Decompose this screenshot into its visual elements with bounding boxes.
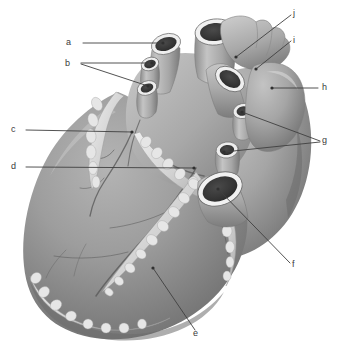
label-letter-e: e — [193, 329, 198, 338]
leader-endpoint-e-1 — [151, 266, 154, 269]
leader-endpoint-b-2 — [146, 84, 149, 87]
label-letter-i: i — [293, 36, 295, 45]
label-letter-g: g — [322, 136, 327, 145]
label-letter-j: j — [293, 9, 295, 18]
label-letter-b: b — [65, 59, 70, 68]
leader-endpoint-f-1 — [216, 187, 219, 190]
leader-endpoint-g-1 — [240, 110, 243, 113]
leader-endpoint-j-1 — [234, 55, 237, 58]
heart-anatomy-figure: abcdefghij — [0, 0, 339, 351]
label-letter-d: d — [11, 162, 16, 171]
heart-illustration — [0, 0, 339, 351]
label-letter-c: c — [11, 125, 16, 134]
leader-endpoint-a-1 — [161, 41, 164, 44]
label-letter-a: a — [66, 38, 71, 47]
leader-endpoint-c-1 — [130, 130, 133, 133]
leader-endpoint-b-1 — [150, 61, 153, 64]
leader-endpoint-i-1 — [254, 67, 257, 70]
leader-endpoint-h-1 — [270, 86, 273, 89]
leader-endpoint-g-2 — [222, 150, 225, 153]
label-letter-f: f — [292, 260, 295, 269]
leader-endpoint-d-1 — [192, 166, 195, 169]
label-letter-h: h — [322, 83, 327, 92]
